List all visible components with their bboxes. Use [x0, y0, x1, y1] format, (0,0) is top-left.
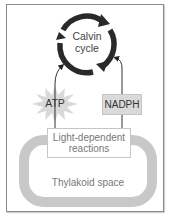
calvin-label-line1: Calvin: [66, 31, 108, 43]
nadph-box: NADPH: [102, 94, 142, 115]
nadph-label: NADPH: [104, 99, 139, 110]
calvin-label-line2: cycle: [66, 43, 108, 55]
light-dependent-reactions-box: Light-dependent reactions: [47, 128, 131, 158]
nadph-to-cycle-arrow: [116, 58, 122, 128]
calvin-cycle-label: Calvin cycle: [66, 31, 108, 55]
light-reactions-line1: Light-dependent: [53, 132, 125, 144]
thylakoid-space-label: Thylakoid space: [40, 177, 136, 188]
atp-label: ATP: [41, 98, 69, 110]
light-reactions-line2: reactions: [69, 143, 110, 155]
